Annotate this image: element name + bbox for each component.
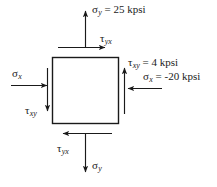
stress-element-square bbox=[53, 58, 119, 124]
label-tau-xy-left: τxy bbox=[25, 105, 37, 118]
label-sigma-y-top: σy = 25 kpsi bbox=[92, 4, 146, 17]
sigma-x-right-value: = -20 kpsi bbox=[153, 70, 200, 82]
sigma-x-left-subscript: x bbox=[18, 72, 22, 81]
stress-diagram-canvas bbox=[0, 0, 217, 187]
tau-yx-bottom-subscript: yx bbox=[61, 147, 68, 156]
tau-xy-right-value: = 4 kpsi bbox=[140, 56, 178, 68]
label-sigma-x-left: σx bbox=[12, 68, 22, 81]
tau-xy-right-subscript: xy bbox=[132, 61, 139, 70]
stress-element-figure: σy = 25 kpsi τyx τxy = 4 kpsi σx = -20 k… bbox=[0, 0, 217, 187]
label-tau-yx-top: τyx bbox=[100, 33, 112, 46]
label-sigma-x-right: σx = -20 kpsi bbox=[143, 71, 200, 84]
tau-xy-left-subscript: xy bbox=[29, 109, 36, 118]
label-tau-xy-right: τxy = 4 kpsi bbox=[128, 57, 178, 70]
sigma-y-top-value: = 25 kpsi bbox=[102, 3, 146, 15]
label-tau-yx-bottom: τyx bbox=[57, 143, 69, 156]
tau-yx-top-subscript: yx bbox=[104, 37, 111, 46]
label-sigma-y-bottom: σy bbox=[92, 160, 102, 173]
sigma-y-bottom-subscript: y bbox=[98, 164, 102, 173]
